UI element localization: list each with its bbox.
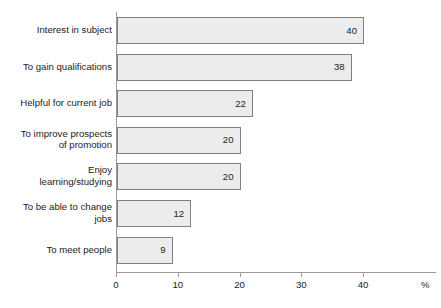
tick-mark <box>240 272 241 277</box>
category-label: Interest in subject <box>0 24 112 36</box>
bar-row: To meet people9 <box>0 237 441 264</box>
bar-value-label: 20 <box>223 136 234 146</box>
tick-label: 10 <box>172 279 183 290</box>
category-label: Enjoy learning/studying <box>0 164 112 187</box>
category-label: To improve prospects of promotion <box>0 128 112 151</box>
tick-label: 40 <box>358 279 369 290</box>
bar-row: Interest in subject40 <box>0 17 441 44</box>
tick-mark <box>301 272 302 277</box>
bar-row: To improve prospects of promotion20 <box>0 127 441 154</box>
x-axis-unit-label: % <box>421 279 430 290</box>
tick-mark <box>116 272 117 277</box>
bar-row: To be able to change jobs12 <box>0 200 441 227</box>
tick-label: 20 <box>234 279 245 290</box>
tick-mark <box>178 272 179 277</box>
category-label: To meet people <box>0 244 112 256</box>
tick-mark <box>363 272 364 277</box>
bar: 40 <box>117 17 364 44</box>
bar: 20 <box>117 127 241 154</box>
bar: 12 <box>117 200 191 227</box>
bar-row: Helpful for current job22 <box>0 90 441 117</box>
bar-value-label: 40 <box>346 26 357 36</box>
bar: 20 <box>117 163 241 190</box>
bar: 22 <box>117 90 253 117</box>
plot-area: Interest in subject40To gain qualificati… <box>0 0 441 308</box>
bar-value-label: 12 <box>173 209 184 219</box>
tick-label: 30 <box>296 279 307 290</box>
bar-chart: Interest in subject40To gain qualificati… <box>0 0 441 308</box>
bar: 38 <box>117 54 352 81</box>
category-label: To be able to change jobs <box>0 201 112 224</box>
bar-value-label: 20 <box>223 172 234 182</box>
x-axis-line <box>116 272 436 273</box>
category-label: To gain qualifications <box>0 61 112 73</box>
category-label: Helpful for current job <box>0 97 112 109</box>
bar-row: Enjoy learning/studying20 <box>0 163 441 190</box>
bar-value-label: 22 <box>235 99 246 109</box>
bar-value-label: 9 <box>160 245 165 255</box>
bar: 9 <box>117 237 173 264</box>
tick-label: 0 <box>113 279 118 290</box>
bar-row: To gain qualifications38 <box>0 54 441 81</box>
bar-value-label: 38 <box>334 62 345 72</box>
